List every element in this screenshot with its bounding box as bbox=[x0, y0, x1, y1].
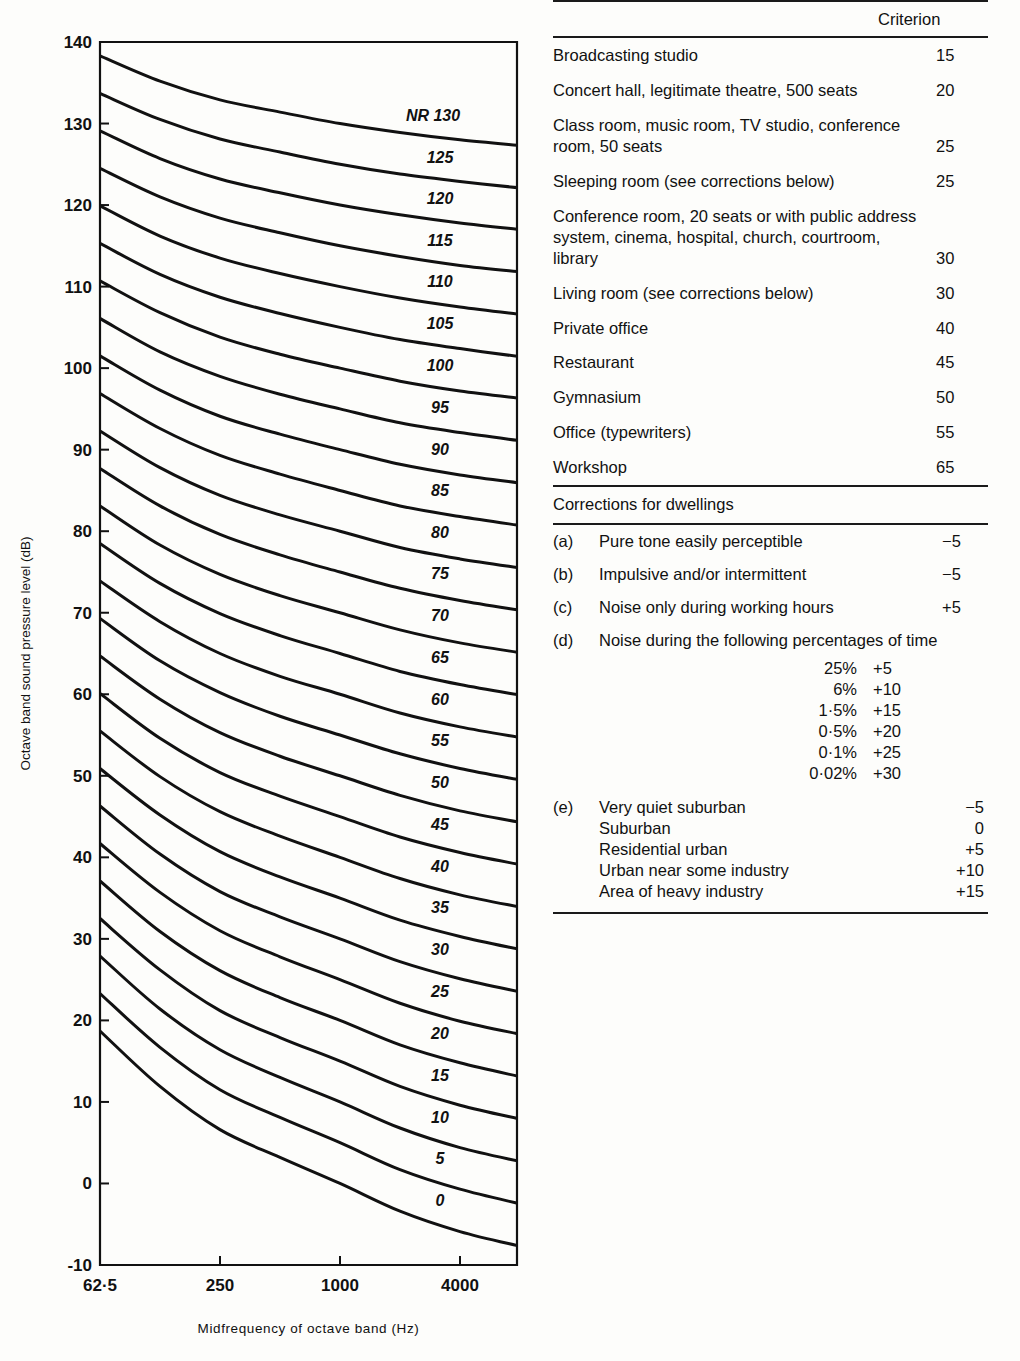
criteria-value: 65 bbox=[932, 457, 988, 478]
criterion-header: Criterion bbox=[878, 9, 988, 30]
percentage-rows: 25%+56%+101·5%+150·5%+200·1%+250·02%+30 bbox=[553, 657, 988, 784]
percentage-spacer bbox=[553, 679, 785, 700]
percentage-row: 0·02%+30 bbox=[553, 763, 988, 784]
percentage-value: +30 bbox=[863, 763, 933, 784]
y-axis-tick-label: 10 bbox=[73, 1093, 92, 1112]
criteria-value: 55 bbox=[932, 422, 988, 443]
percentage-row: 25%+5 bbox=[553, 658, 988, 679]
percentage-row: 1·5%+15 bbox=[553, 700, 988, 721]
y-axis-tick-label: 140 bbox=[64, 33, 92, 52]
nr-curve-label: 45 bbox=[430, 816, 450, 833]
correction-tag: (a) bbox=[553, 531, 599, 552]
nr-curve-label: 30 bbox=[431, 941, 449, 958]
environment-row: Area of heavy industry+15 bbox=[553, 881, 988, 902]
criteria-value: 50 bbox=[932, 387, 988, 408]
y-axis-tick-label: 80 bbox=[73, 522, 92, 541]
correction-value: −5 bbox=[942, 531, 988, 552]
criteria-table-row: Class room, music room, TV studio, confe… bbox=[553, 108, 988, 164]
criteria-table: Criterion Broadcasting studio15Concert h… bbox=[553, 0, 988, 1361]
criteria-description: Conference room, 20 seats or with public… bbox=[553, 206, 932, 269]
x-axis-tick-label: 250 bbox=[206, 1276, 234, 1295]
nr-curve-label: 80 bbox=[431, 524, 449, 541]
environment-name: Urban near some industry bbox=[599, 860, 922, 881]
nr-curve-label: 105 bbox=[427, 315, 455, 332]
correction-row: (d)Noise during the following percentage… bbox=[553, 624, 988, 657]
nr-curve-label: 0 bbox=[436, 1192, 445, 1209]
criteria-table-row: Concert hall, legitimate theatre, 500 se… bbox=[553, 73, 988, 108]
y-axis-tick-label: 30 bbox=[73, 930, 92, 949]
percentage-spacer bbox=[553, 700, 785, 721]
environment-name: Area of heavy industry bbox=[599, 881, 922, 902]
criteria-table-row: Sleeping room (see corrections below)25 bbox=[553, 164, 988, 199]
y-axis-tick-label: 100 bbox=[64, 359, 92, 378]
correction-tag: (b) bbox=[553, 564, 599, 585]
criteria-description: Concert hall, legitimate theatre, 500 se… bbox=[553, 80, 932, 101]
x-axis-tick-label: 4000 bbox=[441, 1276, 479, 1295]
criteria-description: Living room (see corrections below) bbox=[553, 283, 932, 304]
x-axis-title: Midfrequency of octave band (Hz) bbox=[198, 1321, 420, 1336]
table-bottom-rule-wrap bbox=[553, 902, 988, 914]
nr-curve bbox=[40, 30, 520, 146]
criteria-description: Workshop bbox=[553, 457, 932, 478]
environment-row: Residential urban+5 bbox=[553, 839, 988, 860]
nr-curve-label: 95 bbox=[431, 399, 450, 416]
nr-curve-label: 125 bbox=[427, 149, 455, 166]
y-axis-tick-label: 20 bbox=[73, 1011, 92, 1030]
correction-row: (a)Pure tone easily perceptible−5 bbox=[553, 525, 988, 558]
correction-value: +5 bbox=[942, 597, 988, 618]
criteria-rows: Broadcasting studio15Concert hall, legit… bbox=[553, 38, 988, 485]
nr-curve-label: 70 bbox=[431, 607, 449, 624]
criteria-description: Gymnasium bbox=[553, 387, 932, 408]
criteria-table-row: Office (typewriters)55 bbox=[553, 415, 988, 450]
criteria-description: Class room, music room, TV studio, confe… bbox=[553, 115, 932, 157]
correction-text: Pure tone easily perceptible bbox=[599, 531, 942, 552]
criteria-table-row: Living room (see corrections below)30 bbox=[553, 276, 988, 311]
correction-row: (c)Noise only during working hours+5 bbox=[553, 591, 988, 624]
percentage-label: 25% bbox=[785, 658, 863, 679]
chart-svg: -10010203040506070809010011012013014062·… bbox=[0, 0, 530, 1361]
nr-curve-label: 115 bbox=[427, 232, 454, 249]
nr-curve-label: 120 bbox=[427, 190, 454, 207]
percentage-value: +10 bbox=[863, 679, 933, 700]
y-axis-tick-label: 70 bbox=[73, 604, 92, 623]
percentage-row: 0·1%+25 bbox=[553, 742, 988, 763]
nr-curve-label: 85 bbox=[431, 482, 450, 499]
percentage-spacer bbox=[553, 721, 785, 742]
nr-curve-label: 100 bbox=[427, 357, 454, 374]
criteria-value: 25 bbox=[932, 136, 988, 157]
nr-curve-label: 55 bbox=[431, 732, 450, 749]
nr-curve-label: 40 bbox=[430, 858, 449, 875]
criteria-table-row: Broadcasting studio15 bbox=[553, 38, 988, 73]
criteria-value: 30 bbox=[932, 283, 988, 304]
correction-text: Impulsive and/or intermittent bbox=[599, 564, 942, 585]
y-axis-tick-label: 60 bbox=[73, 685, 92, 704]
criteria-description: Broadcasting studio bbox=[553, 45, 932, 66]
criteria-value: 40 bbox=[932, 318, 988, 339]
y-axis-tick-label: -10 bbox=[67, 1256, 92, 1275]
correction-text: Noise during the following percentages o… bbox=[599, 630, 942, 651]
y-axis-tick-label: 50 bbox=[73, 767, 92, 786]
nr-curve-label: 50 bbox=[431, 774, 449, 791]
environment-value: +5 bbox=[922, 839, 988, 860]
nr-curve-group bbox=[40, 30, 520, 1246]
percentage-spacer bbox=[553, 658, 785, 679]
nr-curve-label: 75 bbox=[431, 565, 450, 582]
percentage-label: 6% bbox=[785, 679, 863, 700]
criteria-table-row: Private office40 bbox=[553, 311, 988, 346]
criteria-value: 15 bbox=[932, 45, 988, 66]
correction-tag: (d) bbox=[553, 630, 599, 651]
percentage-value: +25 bbox=[863, 742, 933, 763]
percentage-row: 6%+10 bbox=[553, 679, 988, 700]
percentage-label: 1·5% bbox=[785, 700, 863, 721]
correction-tag: (c) bbox=[553, 597, 599, 618]
percentage-value: +15 bbox=[863, 700, 933, 721]
percentage-spacer bbox=[553, 763, 785, 784]
nr-curve-label: 15 bbox=[431, 1067, 450, 1084]
nr-curve-label: 65 bbox=[431, 649, 450, 666]
nr-curve-label: 35 bbox=[431, 899, 450, 916]
environment-rows: (e)Very quiet suburban−5Suburban0Residen… bbox=[553, 784, 988, 902]
percentage-value: +20 bbox=[863, 721, 933, 742]
percentage-label: 0·1% bbox=[785, 742, 863, 763]
criteria-description: Private office bbox=[553, 318, 932, 339]
environment-value: −5 bbox=[922, 797, 988, 818]
